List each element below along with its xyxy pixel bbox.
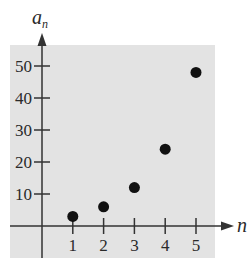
- y-tick-label: 10: [15, 185, 32, 204]
- data-point: [98, 201, 109, 212]
- data-point: [160, 144, 171, 155]
- x-tick-label: 1: [69, 236, 78, 255]
- y-tick-label: 50: [15, 57, 32, 76]
- x-axis-arrow-icon: [221, 222, 234, 231]
- data-point: [129, 182, 140, 193]
- x-tick-label: 4: [161, 236, 170, 255]
- data-point: [67, 211, 78, 222]
- x-tick-label: 5: [192, 236, 201, 255]
- x-tick-label: 3: [130, 236, 139, 255]
- x-tick-label: 2: [99, 236, 108, 255]
- x-axis-label: n: [237, 214, 247, 236]
- scatter-chart: 12345 1020304050 n an: [0, 0, 249, 275]
- data-point: [191, 67, 202, 78]
- y-axis-arrow-icon: [38, 33, 47, 46]
- y-tick-label: 20: [15, 153, 32, 172]
- y-tick-label: 30: [15, 121, 32, 140]
- y-axis-label: an: [32, 6, 48, 31]
- y-tick-label: 40: [15, 89, 32, 108]
